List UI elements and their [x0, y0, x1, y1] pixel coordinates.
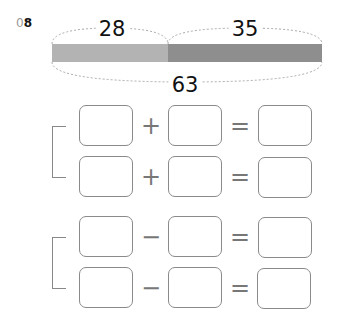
answer-box[interactable] — [168, 267, 222, 308]
answer-box[interactable] — [79, 156, 133, 197]
tape-part-1 — [52, 44, 168, 62]
answer-box[interactable] — [168, 156, 222, 197]
minus-sign: − — [141, 225, 161, 249]
total-label: 63 — [169, 74, 202, 96]
answer-box[interactable] — [79, 267, 133, 308]
answer-box[interactable] — [79, 105, 133, 146]
answer-box[interactable] — [257, 268, 311, 309]
answer-box[interactable] — [258, 105, 312, 146]
plus-sign: + — [141, 165, 161, 189]
answer-box[interactable] — [79, 216, 133, 257]
equals-sign: = — [230, 276, 250, 300]
equals-sign: = — [230, 114, 250, 138]
addition-bracket — [52, 126, 66, 178]
equals-sign: = — [230, 225, 250, 249]
answer-box[interactable] — [258, 157, 312, 198]
part1-label: 28 — [96, 18, 129, 40]
minus-sign: − — [141, 276, 161, 300]
plus-sign: + — [141, 114, 161, 138]
answer-box[interactable] — [168, 105, 222, 146]
equals-sign: = — [230, 165, 250, 189]
tape-part-2 — [168, 44, 322, 62]
answer-box[interactable] — [258, 217, 312, 258]
subtraction-bracket — [52, 237, 66, 289]
part2-label: 35 — [229, 18, 262, 40]
answer-box[interactable] — [168, 216, 222, 257]
